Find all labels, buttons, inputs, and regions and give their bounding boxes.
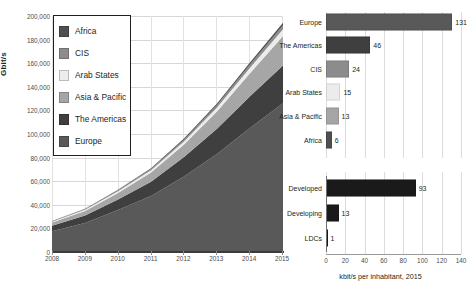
- bar-rect[interactable]: [326, 37, 370, 54]
- y-tick-label: 120,000: [6, 107, 50, 114]
- axis-tick-label: 20: [342, 257, 349, 264]
- bar-value-label: 93: [419, 184, 427, 191]
- legend-item-asia-pacific[interactable]: Asia & Pacific: [54, 86, 130, 108]
- legend-swatch-icon: [59, 114, 69, 125]
- bar-value-label: 46: [373, 42, 381, 49]
- bar-row-label: Developing: [287, 209, 322, 216]
- bar-row-label: Asia & Pacific: [279, 112, 322, 119]
- y-tick-label: 0: [6, 249, 50, 256]
- x-tick-label: 2011: [144, 255, 158, 262]
- bar-rect[interactable]: [326, 179, 416, 196]
- bar-row: Arab States15: [300, 83, 461, 102]
- legend-item-label: Europe: [75, 137, 102, 145]
- legend-swatch-icon: [59, 92, 69, 103]
- x-tick-label: 2010: [111, 255, 125, 262]
- x-tick-label: 2015: [275, 255, 289, 262]
- bar-gridline: [461, 172, 462, 254]
- y-tick-label: 60,000: [6, 178, 50, 185]
- axis-tick-label: 60: [380, 257, 387, 264]
- bar-rect[interactable]: [326, 107, 339, 124]
- bar-charts-panel: Europe131The Americas46CIS24Arab States1…: [300, 0, 461, 292]
- legend-swatch-icon: [59, 136, 69, 147]
- y-tick-label: 200,000: [6, 13, 50, 20]
- y-tick-label: 80,000: [6, 154, 50, 161]
- legend-item-europe[interactable]: Europe: [54, 130, 130, 152]
- x-tick-label: 2012: [176, 255, 190, 262]
- y-tick-label: 140,000: [6, 83, 50, 90]
- bar-rect[interactable]: [326, 131, 332, 148]
- y-tick-label: 180,000: [6, 36, 50, 43]
- x-tick-label: 2008: [45, 255, 59, 262]
- legend-item-the-americas[interactable]: The Americas: [54, 108, 130, 130]
- bar-row-label: Arab States: [285, 89, 322, 96]
- bar-row: Africa6: [300, 130, 461, 149]
- legend-item-cis[interactable]: CIS: [54, 42, 130, 64]
- bottom-axis-line: [326, 254, 461, 255]
- bar-value-label: 6: [335, 136, 339, 143]
- legend-item-africa[interactable]: Africa: [54, 20, 130, 42]
- legend-item-label: Asia & Pacific: [75, 93, 126, 101]
- axis-tick-label: 80: [400, 257, 407, 264]
- x-tick-label: 2013: [209, 255, 223, 262]
- bar-value-label: 13: [342, 209, 350, 216]
- bar-row-label: Europe: [299, 18, 322, 25]
- bar-row-label: LDCs: [304, 234, 322, 241]
- legend-swatch-icon: [59, 26, 69, 37]
- chart-caption: kbit/s per inhabitant, 2015: [300, 272, 461, 281]
- bar-rect[interactable]: [326, 84, 340, 101]
- x-tick-label: 2014: [242, 255, 256, 262]
- legend-item-label: CIS: [75, 49, 89, 57]
- bar-rect[interactable]: [326, 60, 349, 77]
- legend-swatch-icon: [59, 70, 69, 81]
- bar-row-label: CIS: [310, 65, 322, 72]
- y-tick-label: 20,000: [6, 225, 50, 232]
- bar-value-label: 13: [342, 112, 350, 119]
- bar-row-label: Developed: [289, 184, 322, 191]
- y-tick-label: 100,000: [6, 131, 50, 138]
- legend-item-label: Arab States: [75, 71, 119, 79]
- bar-value-label: 1: [331, 234, 335, 241]
- stacked-area-chart-panel: Gbit/s 200,000180,000160,000140,000120,0…: [0, 0, 300, 292]
- bar-value-label: 15: [343, 89, 351, 96]
- bar-row: CIS24: [300, 59, 461, 78]
- bar-row: Developing13: [300, 203, 461, 222]
- legend-item-arab-states[interactable]: Arab States: [54, 64, 130, 86]
- bar-rect[interactable]: [326, 204, 339, 221]
- area-chart-legend: AfricaCISArab StatesAsia & PacificThe Am…: [53, 15, 131, 156]
- legend-item-label: The Americas: [75, 115, 126, 123]
- axis-tick-label: 140: [456, 257, 467, 264]
- axis-tick-label: 40: [361, 257, 368, 264]
- y-tick-label: 160,000: [6, 60, 50, 67]
- bar-row: Europe131: [300, 12, 461, 31]
- bar-value-label: 24: [352, 65, 360, 72]
- axis-tick-label: 0: [324, 257, 328, 264]
- bar-row: Developed93: [300, 178, 461, 197]
- bar-row: Asia & Pacific13: [300, 106, 461, 125]
- legend-swatch-icon: [59, 48, 69, 59]
- bar-value-label: 131: [455, 18, 467, 25]
- axis-tick-label: 120: [436, 257, 447, 264]
- bar-gridline: [461, 12, 462, 158]
- bar-row: LDCs1: [300, 228, 461, 247]
- legend-item-label: Africa: [75, 27, 96, 35]
- bar-row-label: Africa: [304, 136, 322, 143]
- y-tick-label: 40,000: [6, 201, 50, 208]
- bar-row: The Americas46: [300, 36, 461, 55]
- bar-rect[interactable]: [326, 13, 452, 30]
- bar-row-label: The Americas: [279, 42, 322, 49]
- bottom-zero-line: [326, 176, 327, 252]
- x-axis-tick-labels: 20082009201020112012201320142015: [52, 255, 283, 271]
- x-tick-label: 2009: [78, 255, 92, 262]
- y-axis-tick-labels: 200,000180,000160,000140,000120,000100,0…: [6, 0, 50, 292]
- axis-tick-label: 100: [417, 257, 428, 264]
